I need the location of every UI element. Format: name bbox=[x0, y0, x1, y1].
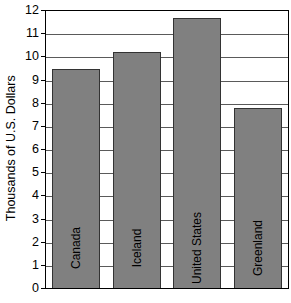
bar-label: United States bbox=[191, 212, 203, 284]
y-tick-label: 0 bbox=[20, 282, 39, 295]
y-tick-label: 6 bbox=[20, 143, 39, 156]
y-tick-label: 9 bbox=[20, 73, 39, 86]
y-axis-title: Thousands of U.S. Dollars bbox=[0, 0, 22, 296]
bar-label: Greenland bbox=[252, 220, 264, 276]
y-axis-title-text: Thousands of U.S. Dollars bbox=[5, 75, 18, 221]
y-tick-label: 11 bbox=[20, 27, 39, 40]
plot-area: CanadaIcelandUnited StatesGreenland bbox=[45, 10, 289, 289]
bars-layer: CanadaIcelandUnited StatesGreenland bbox=[46, 11, 288, 288]
bar-label: Iceland bbox=[131, 229, 143, 268]
bar: Greenland bbox=[234, 108, 282, 288]
y-axis-tick-labels: 1211109876543210 bbox=[20, 0, 39, 296]
y-tick-label: 10 bbox=[20, 50, 39, 63]
y-tick-label: 5 bbox=[20, 166, 39, 179]
y-tick-label: 8 bbox=[20, 96, 39, 109]
bar: Canada bbox=[52, 69, 100, 288]
bar: United States bbox=[173, 18, 221, 288]
y-tick-label: 3 bbox=[20, 212, 39, 225]
y-tick-label: 7 bbox=[20, 120, 39, 133]
y-tick-label: 1 bbox=[20, 259, 39, 272]
bar: Iceland bbox=[113, 52, 161, 288]
y-tick-label: 4 bbox=[20, 189, 39, 202]
bar-label: Canada bbox=[70, 227, 82, 269]
y-tick-label: 12 bbox=[20, 4, 39, 17]
bar-chart: Thousands of U.S. Dollars 12111098765432… bbox=[0, 0, 291, 303]
y-tick-label: 2 bbox=[20, 235, 39, 248]
